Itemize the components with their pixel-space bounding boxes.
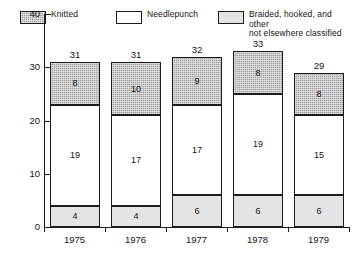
bar-segment-needlepunch[interactable]: 17 [111, 115, 161, 206]
bar-segment-value: 15 [314, 150, 324, 160]
bar-group[interactable]: 615829 [294, 73, 344, 227]
plot-area: 4198314171031617932619833615829 [44, 14, 350, 227]
bar-segment-braided[interactable]: 6 [294, 195, 344, 227]
x-axis-label-1978: 1978 [228, 234, 288, 246]
y-axis-tick-0: 0 [44, 227, 51, 228]
x-axis-label-1979: 1979 [289, 234, 349, 246]
bar-segment-value: 4 [72, 211, 77, 221]
bar-segment-value: 17 [131, 155, 141, 165]
x-axis-tick-3 [227, 227, 228, 232]
bar-segment-value: 8 [255, 68, 260, 78]
bar-segment-needlepunch[interactable]: 17 [172, 105, 222, 196]
x-axis-tick-4 [288, 227, 289, 232]
bar-segment-value: 6 [255, 206, 260, 216]
bar-segment-value: 8 [316, 89, 321, 99]
bar-segment-value: 6 [194, 206, 199, 216]
bar-segment-knitted[interactable]: 9 [172, 57, 222, 105]
bar-segment-value: 4 [133, 211, 138, 221]
bar-segment-braided[interactable]: 6 [172, 195, 222, 227]
y-axis-tick-label-0: 0 [35, 221, 40, 232]
bar-segment-braided[interactable]: 4 [111, 206, 161, 227]
bar-segment-needlepunch[interactable]: 19 [50, 105, 100, 206]
bar-total-label: 29 [294, 60, 344, 71]
bar-group[interactable]: 619833 [233, 51, 283, 227]
bar-group[interactable]: 419831 [50, 62, 100, 227]
x-axis-label-1977: 1977 [167, 234, 227, 246]
stacked-bar-chart: Knitted Needlepunch Braided, hooked, and… [0, 0, 356, 260]
bar-segment-value: 10 [131, 84, 141, 94]
x-axis-tick-start [44, 227, 45, 232]
x-axis-line [44, 227, 350, 228]
bar-segment-braided[interactable]: 6 [233, 195, 283, 227]
y-axis-tick-label-30: 30 [29, 61, 40, 72]
bar-segment-needlepunch[interactable]: 15 [294, 115, 344, 195]
bar-segment-value: 9 [194, 76, 199, 86]
bar-segment-knitted[interactable]: 8 [50, 62, 100, 105]
bar-segment-knitted[interactable]: 8 [233, 51, 283, 94]
x-axis-tick-2 [166, 227, 167, 232]
bar-total-label: 32 [172, 44, 222, 55]
y-axis-tick-label-10: 10 [29, 168, 40, 179]
bar-total-label: 31 [111, 49, 161, 60]
bar-segment-braided[interactable]: 4 [50, 206, 100, 227]
bar-segment-value: 19 [70, 150, 80, 160]
x-axis-tick-1 [105, 227, 106, 232]
bar-segment-value: 6 [316, 206, 321, 216]
bar-segment-needlepunch[interactable]: 19 [233, 94, 283, 195]
bar-total-label: 31 [50, 49, 100, 60]
y-axis-tick-label-20: 20 [29, 115, 40, 126]
y-axis-tick-label-40: 40 [29, 8, 40, 19]
x-axis-tick-end [349, 227, 350, 232]
bar-segment-knitted[interactable]: 10 [111, 62, 161, 115]
x-axis-label-1976: 1976 [106, 234, 166, 246]
bar-segment-knitted[interactable]: 8 [294, 73, 344, 116]
bar-segment-value: 19 [253, 139, 263, 149]
bar-group[interactable]: 617932 [172, 57, 222, 227]
bar-group[interactable]: 4171031 [111, 62, 161, 227]
bar-segment-value: 8 [72, 78, 77, 88]
bar-segment-value: 17 [192, 145, 202, 155]
bar-total-label: 33 [233, 38, 283, 49]
x-axis-label-1975: 1975 [45, 234, 105, 246]
